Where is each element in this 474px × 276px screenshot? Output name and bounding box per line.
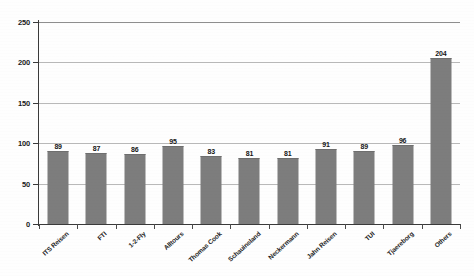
x-axis-label: Schauinsland bbox=[226, 230, 261, 263]
bars-layer: 89878695838181918996204 bbox=[39, 22, 460, 224]
bar-group: 91 bbox=[307, 22, 345, 224]
x-axis-label: Thomas Cook bbox=[187, 230, 223, 263]
x-axis-label: FTI bbox=[96, 230, 108, 242]
bar-chart: 050100150200250 89878695838181918996204 … bbox=[0, 0, 474, 276]
x-axis-label: Others bbox=[433, 230, 453, 249]
bar bbox=[392, 145, 413, 224]
bar-group: 87 bbox=[77, 22, 115, 224]
bar bbox=[239, 158, 260, 224]
bar-value-label: 81 bbox=[246, 150, 253, 157]
bar-group: 95 bbox=[154, 22, 192, 224]
bar bbox=[201, 156, 222, 224]
bar-group: 81 bbox=[230, 22, 268, 224]
x-axis-label: ITS Reisen bbox=[41, 230, 70, 257]
bar-group: 204 bbox=[422, 22, 460, 224]
bar-group: 89 bbox=[345, 22, 383, 224]
bar bbox=[48, 151, 69, 224]
bar-group: 83 bbox=[192, 22, 230, 224]
y-tick-label: 0 bbox=[0, 220, 30, 229]
bar bbox=[354, 151, 375, 224]
bar-group: 81 bbox=[269, 22, 307, 224]
x-axis-label: Jahn Reisen bbox=[305, 230, 337, 260]
bar bbox=[316, 149, 337, 224]
bar-value-label: 96 bbox=[399, 137, 406, 144]
bar-group: 96 bbox=[383, 22, 421, 224]
bar-value-label: 81 bbox=[284, 150, 291, 157]
bar-group: 86 bbox=[116, 22, 154, 224]
bar bbox=[430, 58, 451, 224]
bar-value-label: 87 bbox=[93, 145, 100, 152]
y-tick-label: 150 bbox=[0, 99, 30, 108]
x-axis-labels: ITS ReisenFTI1-2-FlyAlltoursThomas CookS… bbox=[39, 228, 460, 276]
bar-value-label: 91 bbox=[322, 141, 329, 148]
y-tick-label: 100 bbox=[0, 139, 30, 148]
bar-group: 89 bbox=[39, 22, 77, 224]
bar bbox=[162, 146, 183, 224]
bar bbox=[124, 154, 145, 224]
y-tick-label: 200 bbox=[0, 58, 30, 67]
x-tick-mark bbox=[460, 224, 461, 229]
y-tick-label: 50 bbox=[0, 180, 30, 189]
bar bbox=[277, 158, 298, 224]
bar-value-label: 204 bbox=[435, 50, 446, 57]
bar-value-label: 89 bbox=[361, 143, 368, 150]
x-axis-label: TUI bbox=[364, 230, 376, 242]
bar-value-label: 95 bbox=[169, 138, 176, 145]
x-axis-label: Neckermann bbox=[267, 230, 300, 261]
bar-value-label: 86 bbox=[131, 146, 138, 153]
y-tick-label: 250 bbox=[0, 18, 30, 27]
bar bbox=[86, 153, 107, 224]
x-axis-label: 1-2-Fly bbox=[127, 230, 147, 249]
x-axis-label: Alltours bbox=[162, 230, 184, 251]
bar-value-label: 89 bbox=[54, 143, 61, 150]
x-axis-label: Tjaereborg bbox=[385, 230, 414, 257]
bar-value-label: 83 bbox=[208, 148, 215, 155]
